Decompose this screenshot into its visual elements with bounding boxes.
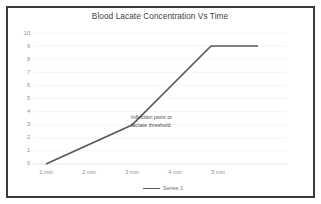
- y-tick-8: 8: [14, 56, 30, 62]
- horizontal-gridlines: [33, 33, 287, 151]
- y-tick-5: 5: [14, 95, 30, 101]
- chart-screenshot: Blood Lacate Concentration Vs Time 10 9 …: [0, 0, 321, 204]
- y-tick-1: 1: [14, 147, 30, 153]
- y-tick-7: 7: [14, 69, 30, 75]
- chart-canvas: Blood Lacate Concentration Vs Time 10 9 …: [0, 0, 321, 204]
- y-tick-2: 2: [14, 134, 30, 140]
- inflection-point-annotation: Inflection point or lactate threshold: [131, 114, 201, 129]
- legend-series-1-line-icon: [143, 188, 160, 190]
- series-1-line: [46, 46, 258, 164]
- chart-legend: Series 1: [118, 185, 208, 192]
- y-tick-9: 9: [14, 43, 30, 49]
- annotation-line-1: Inflection point or: [131, 114, 201, 122]
- y-tick-0: 0: [14, 160, 30, 166]
- x-tick-3-min: 3 min: [112, 169, 152, 176]
- y-tick-4: 4: [14, 108, 30, 114]
- annotation-line-2: lactate threshold: [131, 122, 201, 130]
- x-tick-4-min: 4 min: [155, 169, 195, 176]
- y-tick-6: 6: [14, 82, 30, 88]
- x-tick-2-min: 2 min: [69, 169, 109, 176]
- legend-series-1-label: Series 1: [163, 185, 183, 192]
- x-tick-5-min: 5 min: [198, 169, 238, 176]
- x-tick-1-min: 1 min: [26, 169, 66, 176]
- y-tick-10: 10: [14, 30, 30, 36]
- y-tick-3: 3: [14, 121, 30, 127]
